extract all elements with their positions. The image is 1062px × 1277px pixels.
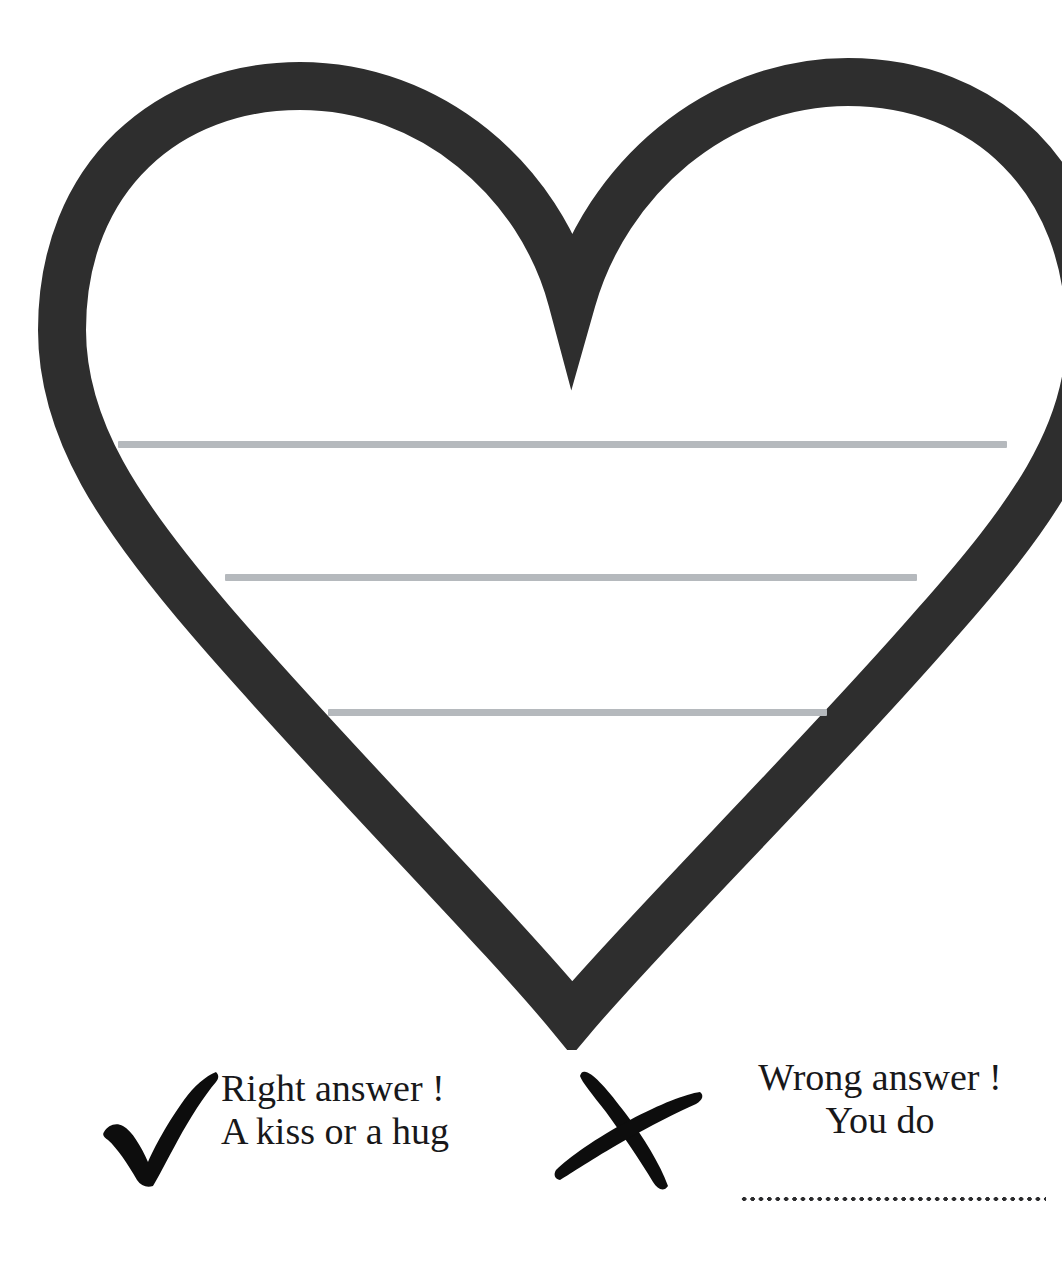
- writing-line-2: [225, 574, 917, 581]
- writing-line-3: [328, 709, 827, 716]
- writing-line-1: [118, 441, 1007, 448]
- answer-legend: Right answer ! A kiss or a hug Wrong ans…: [0, 1040, 1062, 1277]
- heart-section: [0, 0, 1062, 1050]
- worksheet-page: Right answer ! A kiss or a hug Wrong ans…: [0, 0, 1062, 1277]
- correct-answer-line-2: A kiss or a hug: [221, 1110, 449, 1153]
- check-mark-icon: [98, 1070, 226, 1188]
- cross-mark-icon: [550, 1060, 708, 1200]
- correct-answer-line-1: Right answer !: [221, 1067, 449, 1110]
- correct-answer-text: Right answer ! A kiss or a hug: [221, 1067, 449, 1153]
- incorrect-answer-line-2: You do: [720, 1099, 1040, 1142]
- heart-outline-icon: [0, 0, 1062, 1050]
- dotted-fill-in-line[interactable]: [740, 1195, 1046, 1203]
- incorrect-answer-text: Wrong answer ! You do: [720, 1056, 1040, 1142]
- incorrect-answer-line-1: Wrong answer !: [720, 1056, 1040, 1099]
